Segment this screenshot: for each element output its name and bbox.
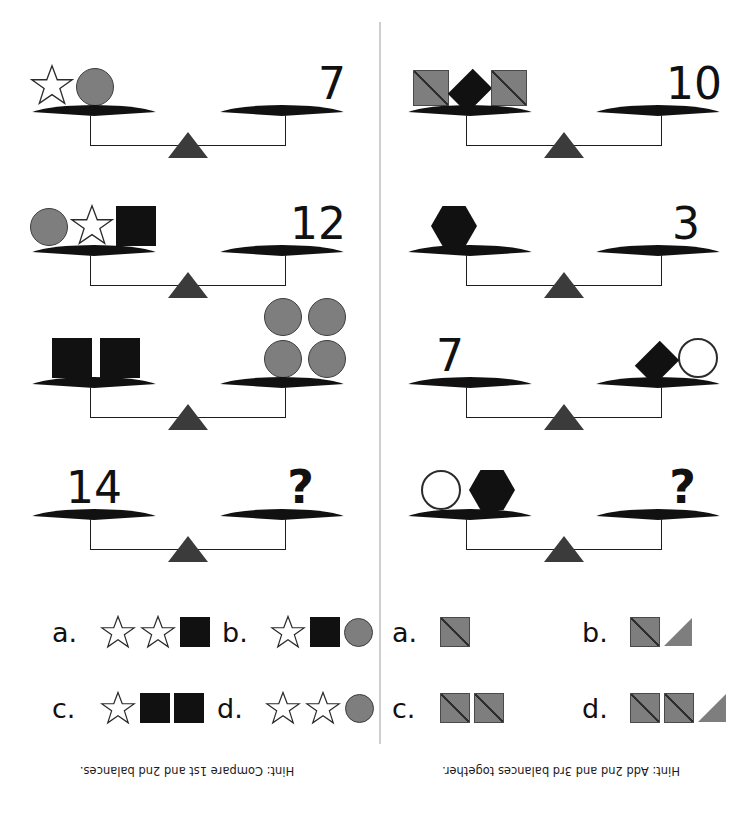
answer-row: a. b. xyxy=(374,596,748,668)
answer-shapes xyxy=(100,615,210,649)
answer-shapes xyxy=(270,615,373,649)
right-answer-options: a. b. c. d. xyxy=(374,596,748,744)
circle-gray-shape xyxy=(30,208,68,246)
left-balance-4: 14 ? xyxy=(28,432,348,562)
square-black-shape xyxy=(140,693,170,723)
answer-option-a[interactable]: a. xyxy=(0,615,210,649)
circle-white-shape xyxy=(678,338,718,378)
circle-gray-shape xyxy=(264,340,302,378)
star-white-shape xyxy=(305,691,341,725)
star-white-shape xyxy=(30,64,74,106)
answer-label: a. xyxy=(52,617,86,648)
left-balance-1-left-load xyxy=(30,64,114,106)
balance-fulcrum xyxy=(544,272,584,298)
left-hint-text: Hint: Compare 1st and 2nd balances. xyxy=(0,764,374,778)
answer-row: a. b. xyxy=(0,596,374,668)
right-balance-1-left-load xyxy=(404,70,536,106)
balance-value: 14 xyxy=(66,466,122,510)
square-gray-diagonal-shape xyxy=(413,70,449,106)
hexagon-black-shape xyxy=(469,470,515,510)
square-gray-diagonal-shape xyxy=(440,693,470,723)
star-white-shape xyxy=(265,691,301,725)
right-balance-4-right-load: ? xyxy=(669,464,696,510)
answer-label: d. xyxy=(217,693,251,724)
hexagon-black-shape xyxy=(431,206,477,246)
right-balance-1: 10 xyxy=(404,28,724,158)
left-balance-3-right-load xyxy=(264,298,346,378)
right-hint-text: Hint: Add 2nd and 3rd balances together. xyxy=(374,764,748,778)
left-balance-1-right-load: 7 xyxy=(318,62,346,106)
balance-fulcrum xyxy=(544,536,584,562)
answer-row: c. d. xyxy=(374,672,748,744)
star-white-shape xyxy=(100,615,136,649)
answer-option-c[interactable]: c. xyxy=(0,691,205,725)
square-gray-diagonal-shape xyxy=(474,693,504,723)
square-gray-diagonal-shape xyxy=(491,70,527,106)
balance-value: 7 xyxy=(318,62,346,106)
square-black-shape xyxy=(116,206,156,246)
square-black-shape xyxy=(180,617,210,647)
answer-row: c. d. xyxy=(0,672,374,744)
balance-fulcrum xyxy=(168,272,208,298)
circle-gray-shape xyxy=(345,694,374,723)
left-balance-3-left-load xyxy=(30,338,162,378)
triangle-gray-shape xyxy=(664,618,692,646)
answer-label: a. xyxy=(392,617,426,648)
right-balance-3: 7 xyxy=(404,300,724,430)
left-balance-2-left-load xyxy=(30,204,156,246)
balance-value: 7 xyxy=(436,334,464,378)
answer-shapes xyxy=(265,691,374,725)
right-balance-2-left-load xyxy=(388,206,520,246)
square-gray-diagonal-shape xyxy=(630,693,660,723)
unknown-value: ? xyxy=(669,464,696,510)
right-balance-3-right-load xyxy=(638,338,718,378)
answer-option-c[interactable]: c. xyxy=(374,693,558,724)
square-black-shape xyxy=(52,338,92,378)
left-puzzle-panel: 7 12 xyxy=(0,0,374,833)
answer-option-d[interactable]: d. xyxy=(558,693,748,724)
answer-label: d. xyxy=(582,693,616,724)
answer-option-a[interactable]: a. xyxy=(374,617,558,648)
unknown-value: ? xyxy=(287,464,314,510)
answer-shapes xyxy=(630,617,692,647)
square-gray-diagonal-shape xyxy=(440,617,470,647)
balance-fulcrum xyxy=(168,404,208,430)
left-balance-4-right-load: ? xyxy=(287,464,314,510)
answer-label: b. xyxy=(582,617,616,648)
right-balance-1-right-load: 10 xyxy=(666,62,722,106)
circle-gray-shape xyxy=(308,298,346,336)
circle-gray-shape xyxy=(344,618,373,647)
balance-value: 10 xyxy=(666,62,722,106)
circle-group xyxy=(264,298,346,378)
answer-option-b[interactable]: b. xyxy=(558,617,748,648)
answer-shapes xyxy=(440,693,504,723)
balance-fulcrum xyxy=(544,404,584,430)
answer-shapes xyxy=(100,691,204,725)
square-black-shape xyxy=(100,338,140,378)
answer-label: b. xyxy=(222,617,256,648)
square-gray-diagonal-shape xyxy=(664,693,694,723)
left-balance-1: 7 xyxy=(28,28,348,158)
balance-fulcrum xyxy=(544,132,584,158)
left-balance-4-left-load: 14 xyxy=(28,466,160,510)
answer-label: c. xyxy=(392,693,426,724)
circle-gray-shape xyxy=(264,298,302,336)
star-white-shape xyxy=(70,204,114,246)
right-balance-2: 3 xyxy=(404,168,724,298)
answer-label: c. xyxy=(52,693,86,724)
circle-gray-shape xyxy=(76,68,114,106)
answer-shapes xyxy=(630,693,726,723)
right-balance-2-right-load: 3 xyxy=(672,202,700,246)
left-balance-3 xyxy=(28,300,348,430)
answer-option-b[interactable]: b. xyxy=(210,615,374,649)
right-puzzle-panel: 10 3 7 xyxy=(374,0,748,833)
triangle-gray-shape xyxy=(698,694,726,722)
balance-value: 3 xyxy=(672,202,700,246)
circle-gray-shape xyxy=(308,340,346,378)
right-balance-4: ? xyxy=(404,432,724,562)
star-white-shape xyxy=(270,615,306,649)
right-balance-3-left-load: 7 xyxy=(384,334,516,378)
square-black-shape xyxy=(310,617,340,647)
star-white-shape xyxy=(140,615,176,649)
answer-option-d[interactable]: d. xyxy=(205,691,374,725)
